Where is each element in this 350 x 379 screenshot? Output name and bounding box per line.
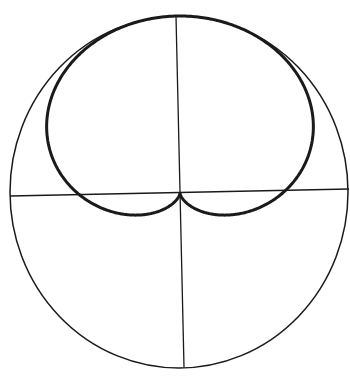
diagram-canvas: [0, 0, 350, 379]
cardioid-figure: [0, 0, 350, 379]
vertical-axis: [176, 16, 184, 367]
